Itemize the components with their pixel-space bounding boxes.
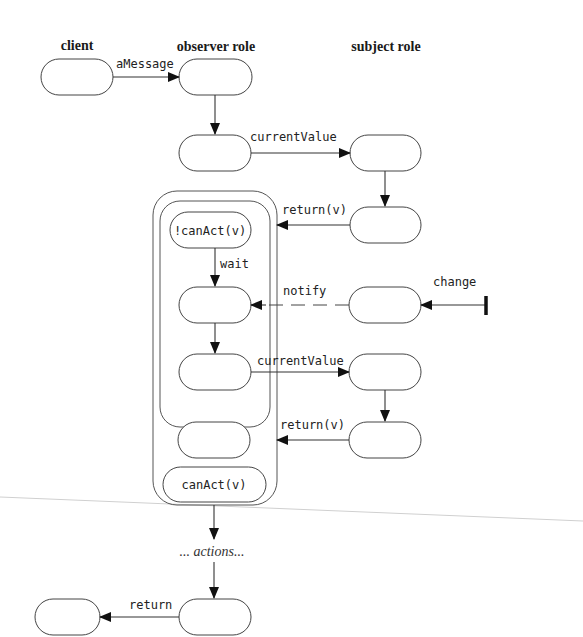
- not-can-act-label: !canAct(v): [174, 224, 246, 238]
- client-node: [41, 59, 113, 95]
- scan-artifact-line: [0, 497, 583, 521]
- actions-label: ... actions...: [180, 544, 245, 559]
- observer-request-node: [179, 135, 251, 171]
- amessage-label: aMessage: [116, 57, 174, 71]
- return-v-label-2: return(v): [280, 418, 345, 432]
- return-v-label-1: return(v): [282, 203, 347, 217]
- heading-subject-role: subject role: [351, 39, 420, 54]
- subject-return-node-2: [349, 422, 421, 458]
- observer-subject-interaction-diagram: client observer role subject role aMessa…: [0, 0, 583, 637]
- return-label: return: [129, 598, 172, 612]
- observer-exit-node: [179, 599, 251, 635]
- observer-rerequest-node: [179, 354, 251, 390]
- heading-observer-role: observer role: [177, 39, 255, 54]
- change-label: change: [433, 275, 476, 289]
- observer-check-node: [178, 422, 250, 458]
- heading-client: client: [61, 38, 94, 53]
- subject-change-node: [349, 287, 421, 323]
- wait-label: wait: [220, 257, 249, 271]
- subject-receive-node-2: [349, 354, 421, 390]
- subject-receive-node: [350, 135, 421, 171]
- subject-return-node-1: [350, 207, 421, 243]
- client-return-node: [35, 599, 100, 635]
- waiting-node: [179, 287, 251, 323]
- observer-entry-node: [179, 59, 252, 95]
- currentvalue-label-1: currentValue: [250, 130, 337, 144]
- currentvalue-label-2: currentValue: [257, 354, 344, 368]
- can-act-label: canAct(v): [181, 478, 246, 492]
- notify-label: notify: [283, 284, 326, 298]
